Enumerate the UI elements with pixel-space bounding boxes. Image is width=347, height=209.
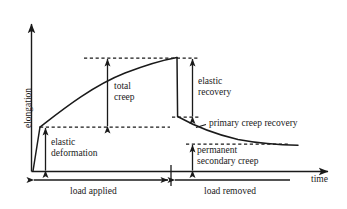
permanent-secondary-creep-label-line1: permanent — [197, 145, 237, 156]
reference-lines-group — [40, 58, 290, 144]
elastic-jump-segment — [33, 127, 40, 171]
elastic-recovery-label-line2: recovery — [198, 87, 231, 98]
elastic-recovery-drop-segment — [177, 58, 178, 117]
diagram-canvas — [0, 0, 347, 209]
elastic-recovery-label-line1: elastic — [198, 76, 222, 87]
load-removed-label: load removed — [204, 186, 256, 197]
primary-creep-recovery-label: primary creep recovery — [209, 118, 298, 129]
elastic-deformation-label-line1: elastic — [51, 137, 75, 148]
total-creep-label-line1: total — [114, 81, 131, 92]
permanent-secondary-creep-label-line2: secondary creep — [197, 156, 258, 167]
x-axis-label: time — [311, 174, 328, 185]
y-axis-label: elongation — [23, 88, 34, 128]
elastic-deformation-label-line2: deformation — [51, 148, 97, 159]
creep-loading-segment — [40, 58, 177, 128]
total-creep-label-line2: creep — [114, 92, 135, 103]
creep-recovery-diagram: elongation time total creep elastic defo… — [0, 0, 347, 209]
load-applied-label: load applied — [70, 186, 117, 197]
